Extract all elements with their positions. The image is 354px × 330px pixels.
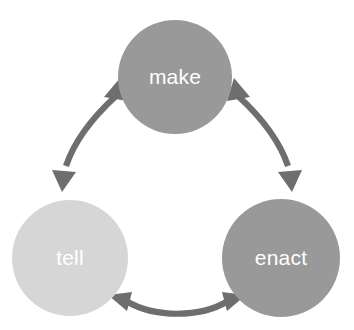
connector-make-enact: [227, 78, 302, 192]
node-enact[interactable]: enact: [222, 199, 340, 317]
connector-make-enact-line: [238, 96, 288, 166]
node-make-label: make: [149, 65, 201, 88]
connector-tell-enact: [108, 292, 246, 314]
arrowhead-to-enact: [278, 170, 302, 192]
cycle-diagram: make tell enact: [0, 0, 354, 330]
connector-make-tell-line: [66, 96, 116, 166]
node-tell-label: tell: [56, 246, 84, 269]
node-make[interactable]: make: [118, 20, 232, 134]
connector-tell-enact-line: [126, 301, 228, 314]
diagram-canvas: make tell enact: [0, 0, 354, 330]
node-enact-label: enact: [255, 246, 307, 269]
node-tell[interactable]: tell: [12, 200, 128, 316]
connector-make-tell: [52, 78, 127, 192]
arrowhead-to-tell: [52, 170, 76, 192]
